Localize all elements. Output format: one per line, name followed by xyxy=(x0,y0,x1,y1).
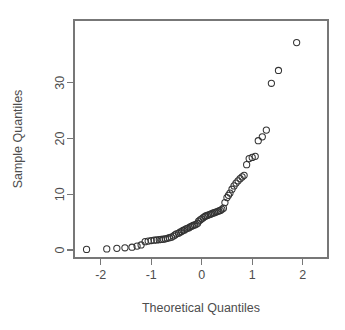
x-tick-label: -2 xyxy=(95,268,106,282)
y-tick-label: 0 xyxy=(53,246,67,253)
x-tick-label: -1 xyxy=(146,268,157,282)
qq-plot-canvas: -2-1012 0102030 Theoretical Quantiles Sa… xyxy=(0,0,345,330)
y-axis-title: Sample Quantiles xyxy=(11,90,25,189)
figure-background xyxy=(0,0,345,330)
x-tick-label: 2 xyxy=(299,268,306,282)
x-tick-label: 1 xyxy=(249,268,256,282)
y-tick-label: 10 xyxy=(53,187,67,201)
y-tick-label: 20 xyxy=(53,131,67,145)
y-tick-label: 30 xyxy=(53,76,67,90)
x-tick-label: 0 xyxy=(198,268,205,282)
x-axis-title: Theoretical Quantiles xyxy=(142,301,260,315)
qq-plot-figure: -2-1012 0102030 Theoretical Quantiles Sa… xyxy=(0,0,345,330)
